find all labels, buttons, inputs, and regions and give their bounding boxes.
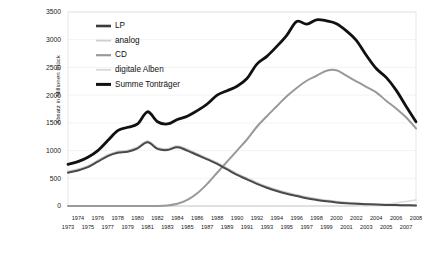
x-tick-label-1993: 1993 [261,224,273,230]
x-tick-label-1994: 1994 [271,215,283,221]
x-tick-label-1999: 1999 [320,224,332,230]
y-tick-label-1000: 1000 [46,147,61,154]
y-tick-label-500: 500 [50,175,62,182]
x-tick-label-1979: 1979 [121,224,133,230]
x-tick-label-1973: 1973 [62,224,74,230]
x-tick-label-1989: 1989 [221,224,233,230]
legend-label-cd: CD [115,50,127,59]
x-tick-label-2000: 2000 [330,215,342,221]
x-tick-label-1977: 1977 [102,224,114,230]
x-tick-label-2006: 2006 [390,215,402,221]
x-tick-label-1995: 1995 [281,224,293,230]
x-tick-label-1991: 1991 [241,224,253,230]
x-tick-label-1986: 1986 [191,215,203,221]
chart-container: 0500100015002000250030003500Absatz in Mi… [0,0,434,253]
x-tick-label-2004: 2004 [370,215,382,221]
legend-label-summe-tontr-ger: Summe Tonträger [115,80,180,89]
x-tick-label-1997: 1997 [300,224,312,230]
x-tick-label-1987: 1987 [201,224,213,230]
x-tick-label-1992: 1992 [251,215,263,221]
y-axis-title-text: Absatz in Millionen Stück [54,54,61,124]
x-tick-label-1981: 1981 [141,224,153,230]
x-tick-label-1974: 1974 [72,215,84,221]
x-tick-label-1988: 1988 [211,215,223,221]
x-tick-label-2005: 2005 [380,224,392,230]
x-tick-label-1976: 1976 [92,215,104,221]
x-tick-label-1985: 1985 [181,224,193,230]
x-tick-label-2003: 2003 [360,224,372,230]
x-tick-label-1983: 1983 [161,224,173,230]
y-axis-title: Absatz in Millionen Stück [54,54,61,124]
legend-label-lp: LP [115,21,126,30]
y-tick-label-3000: 3000 [46,36,61,43]
y-tick-label-3500: 3500 [46,8,61,15]
x-tick-label-1984: 1984 [171,215,183,221]
x-tick-label-2008: 2008 [410,215,422,221]
legend-label-analog: analog [115,36,140,45]
x-tick-label-1982: 1982 [151,215,163,221]
x-tick-label-1996: 1996 [290,215,302,221]
x-tick-label-2001: 2001 [340,224,352,230]
x-tick-label-1978: 1978 [111,215,123,221]
y-tick-label-0: 0 [57,202,61,209]
x-tick-label-1975: 1975 [82,224,94,230]
x-tick-label-1998: 1998 [310,215,322,221]
x-tick-label-1980: 1980 [131,215,143,221]
x-tick-label-2007: 2007 [400,224,412,230]
x-tick-label-1990: 1990 [231,215,243,221]
line-chart: 0500100015002000250030003500Absatz in Mi… [0,0,434,253]
legend-label-digitale-alben: digitale Alben [115,65,164,74]
x-tick-label-2002: 2002 [350,215,362,221]
